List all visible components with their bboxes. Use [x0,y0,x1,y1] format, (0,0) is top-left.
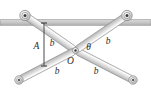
pin-lower-left [15,76,23,84]
label-b-lower-left: b [55,66,60,76]
roller-upper-right [122,10,132,20]
pin-lower-right [129,76,137,84]
figure-canvas: AbbbbOθ [0,0,151,90]
joint-center-dot [132,79,134,81]
bar-body [74,47,135,83]
label-b-upper-right: b [106,36,111,46]
roller-upper-left [20,10,30,20]
joint-center-dot [126,14,129,17]
joint-center-dot [24,14,27,17]
scissor-linkage-figure: AbbbbOθ [0,0,151,90]
bar-center-to-lower-right [74,47,135,83]
label-A: A [33,41,40,51]
bar-highlight [78,50,132,78]
bar-body [74,13,129,54]
label-theta: θ [86,42,91,52]
label-O: O [67,56,74,66]
joint-center-dot [74,49,76,51]
bar-upper-right-to-center [74,13,129,54]
joint-center-dot [18,79,20,81]
label-b-upper-left: b [50,38,55,48]
label-b-lower-right: b [94,66,99,76]
pin-center-O [73,48,79,54]
